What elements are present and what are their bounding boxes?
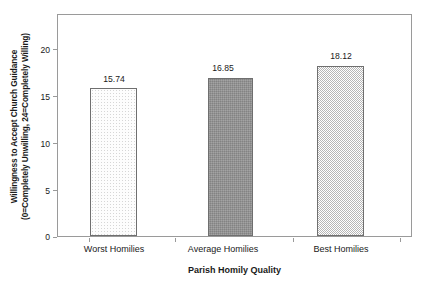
bar-value-average-homilies: 16.85 — [180, 63, 266, 73]
y-axis-title-line1: Willingness to Accept Church Guidance — [9, 32, 20, 219]
bar-chart-figure: Willingness to Accept Church Guidance (0… — [0, 0, 427, 290]
y-tick-label-0: 0 — [36, 232, 50, 242]
x-category-label-average-homilies: Average Homilies — [168, 244, 278, 254]
y-tick-label-10: 10 — [31, 139, 50, 149]
bar-average-homilies[interactable] — [208, 78, 253, 237]
y-axis-title: Willingness to Accept Church Guidance (0… — [0, 0, 38, 252]
x-tick-mark-1 — [175, 238, 176, 242]
bar-value-best-homilies: 18.12 — [311, 51, 371, 61]
x-tick-mark-0 — [89, 238, 90, 242]
x-category-label-best-homilies: Best Homilies — [292, 244, 390, 254]
y-axis-title-line2: (0=Completely Unwilling, 24=Completely W… — [19, 32, 30, 219]
y-tick-label-5: 5 — [36, 186, 50, 196]
x-tick-mark-2 — [293, 238, 294, 242]
x-tick-mark-3 — [400, 238, 401, 242]
y-tick-label-20: 20 — [31, 45, 50, 55]
x-category-label-worst-homilies: Worst Homilies — [62, 244, 166, 254]
y-tick-label-15: 15 — [31, 92, 50, 102]
plot-area — [57, 14, 412, 237]
bar-value-worst-homilies: 15.74 — [86, 74, 142, 84]
y-tick-mark-0 — [53, 237, 57, 238]
bar-best-homilies[interactable] — [317, 66, 364, 236]
bar-worst-homilies[interactable] — [90, 88, 137, 236]
x-axis-title: Parish Homily Quality — [57, 265, 412, 275]
